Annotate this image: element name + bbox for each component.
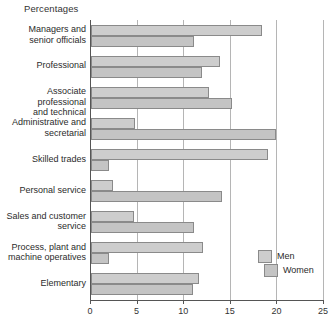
legend-item-women[interactable]: Women bbox=[264, 263, 314, 277]
legend-item-men[interactable]: Men bbox=[258, 249, 295, 263]
x-axis-line bbox=[90, 300, 323, 301]
bar-men-0 bbox=[91, 25, 262, 36]
bar-men-8 bbox=[91, 273, 199, 284]
bar-women-0 bbox=[91, 36, 194, 47]
category-label-7: Process, plant andmachine operatives bbox=[0, 242, 86, 263]
chart-title: Percentages bbox=[24, 3, 78, 14]
legend-label-women: Women bbox=[283, 265, 314, 275]
tick-20 bbox=[276, 300, 277, 304]
category-label-line: Process, plant and bbox=[0, 242, 86, 253]
legend-swatch-women-icon bbox=[264, 264, 278, 277]
category-label-line: Associate professional bbox=[0, 86, 86, 107]
category-label-line: Administrative and bbox=[0, 117, 86, 128]
bar-men-7 bbox=[91, 242, 203, 253]
category-label-2: Associate professionaland technical bbox=[0, 86, 86, 118]
bar-men-4 bbox=[91, 149, 268, 160]
category-label-5: Personal service bbox=[0, 185, 86, 196]
x-tick-label: 15 bbox=[220, 306, 240, 316]
bar-men-1 bbox=[91, 56, 220, 67]
bar-men-5 bbox=[91, 180, 113, 191]
bar-women-4 bbox=[91, 160, 109, 171]
category-label-line: machine operatives bbox=[0, 252, 86, 263]
bar-women-3 bbox=[91, 129, 276, 140]
legend-swatch-men-icon bbox=[258, 250, 272, 263]
tick-10 bbox=[183, 300, 184, 304]
x-tick-label: 25 bbox=[313, 306, 333, 316]
category-axis-labels: Managers andsenior officialsProfessional… bbox=[0, 20, 86, 300]
bar-men-6 bbox=[91, 211, 134, 222]
category-label-line: Skilled trades bbox=[0, 154, 86, 165]
bar-women-7 bbox=[91, 253, 109, 264]
bar-women-8 bbox=[91, 284, 193, 295]
category-label-0: Managers andsenior officials bbox=[0, 24, 86, 45]
x-tick-label: 10 bbox=[173, 306, 193, 316]
category-label-line: and technical bbox=[0, 107, 86, 118]
tick-5 bbox=[137, 300, 138, 304]
tick-25 bbox=[323, 300, 324, 304]
bar-women-2 bbox=[91, 98, 232, 109]
category-label-line: Personal service bbox=[0, 185, 86, 196]
category-label-6: Sales and customerservice bbox=[0, 211, 86, 232]
category-label-8: Elementary bbox=[0, 278, 86, 289]
tick-0 bbox=[90, 300, 91, 304]
category-label-line: Professional bbox=[0, 60, 86, 71]
category-label-1: Professional bbox=[0, 60, 86, 71]
category-label-3: Administrative andsecretarial bbox=[0, 117, 86, 138]
legend: Men Women bbox=[258, 249, 326, 283]
bar-men-3 bbox=[91, 118, 135, 129]
x-tick-label: 5 bbox=[127, 306, 147, 316]
bar-women-1 bbox=[91, 67, 202, 78]
category-label-line: secretarial bbox=[0, 128, 86, 139]
category-label-line: senior officials bbox=[0, 35, 86, 46]
category-label-line: Elementary bbox=[0, 278, 86, 289]
x-tick-label: 20 bbox=[266, 306, 286, 316]
legend-label-men: Men bbox=[277, 251, 295, 261]
category-label-line: Managers and bbox=[0, 24, 86, 35]
category-label-4: Skilled trades bbox=[0, 154, 86, 165]
x-tick-label: 0 bbox=[80, 306, 100, 316]
bar-men-2 bbox=[91, 87, 209, 98]
gridline-15 bbox=[230, 20, 231, 300]
category-label-line: Sales and customer bbox=[0, 211, 86, 222]
tick-15 bbox=[230, 300, 231, 304]
bar-women-6 bbox=[91, 222, 194, 233]
bar-women-5 bbox=[91, 191, 222, 202]
category-label-line: service bbox=[0, 221, 86, 232]
